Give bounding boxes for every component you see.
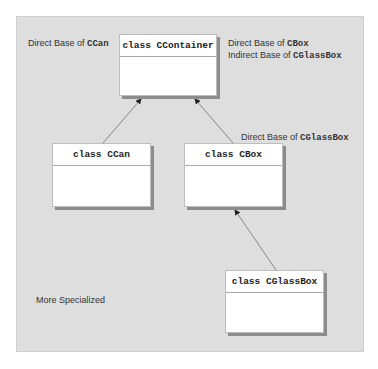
annotation-code: CGlassBox — [300, 133, 349, 143]
class-box-cglassbox: class CGlassBox — [225, 270, 324, 333]
class-box-ccan: class CCan — [52, 143, 151, 207]
annotation-code: CGlassBox — [293, 51, 342, 61]
annotation-text: Direct Base of — [28, 38, 87, 48]
annotation-direct-base-cbox: Direct Base of CBox — [228, 38, 309, 50]
class-name: class CBox — [185, 144, 282, 166]
class-name: class CGlassBox — [226, 271, 323, 293]
annotation-indirect-base-cglassbox: Indirect Base of CGlassBox — [228, 50, 342, 62]
arrow-cglassbox-to-cbox — [235, 210, 276, 270]
annotation-text: Direct Base of — [241, 132, 300, 142]
annotation-more-specialized: More Specialized — [36, 295, 105, 306]
class-box-ccontainer: class CContainer — [119, 34, 217, 96]
arrow-ccan-to-ccontainer — [103, 99, 141, 143]
annotation-direct-base-ccan: Direct Base of CCan — [28, 38, 109, 50]
arrow-cbox-to-ccontainer — [195, 99, 233, 143]
class-box-cbox: class CBox — [184, 143, 283, 207]
annotation-code: CCan — [87, 39, 109, 49]
class-name: class CCan — [53, 144, 150, 166]
annotation-text: Indirect Base of — [228, 50, 293, 60]
annotation-code: CBox — [287, 39, 309, 49]
class-name: class CContainer — [120, 35, 216, 57]
annotation-text: Direct Base of — [228, 38, 287, 48]
annotation-direct-base-cglassbox: Direct Base of CGlassBox — [241, 132, 349, 144]
